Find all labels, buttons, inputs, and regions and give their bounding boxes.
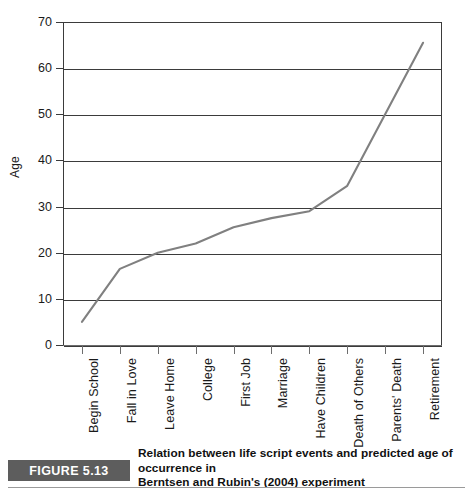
- y-tick-label-60: 60: [12, 61, 52, 75]
- figure-number-badge: FIGURE 5.13: [8, 460, 130, 481]
- gridline-30: [64, 208, 442, 209]
- y-tick-label-30: 30: [12, 200, 52, 214]
- gridline-20: [64, 254, 442, 255]
- y-tick-mark-20: [56, 253, 63, 254]
- y-tick-mark-10: [56, 299, 63, 300]
- caption-line-1: Relation between life script events and …: [138, 446, 468, 475]
- x-tick-mark-0: [82, 345, 83, 354]
- gridline-60: [64, 69, 442, 70]
- x-tick-mark-4: [234, 345, 235, 354]
- x-tick-mark-2: [158, 345, 159, 354]
- y-tick-label-0: 0: [12, 338, 52, 352]
- x-tick-mark-9: [423, 345, 424, 354]
- y-tick-label-50: 50: [12, 107, 52, 121]
- y-tick-mark-60: [56, 68, 63, 69]
- x-tick-label-9: Retirement: [428, 358, 442, 420]
- x-tick-label-3: College: [201, 358, 215, 401]
- y-tick-mark-50: [56, 114, 63, 115]
- x-tick-label-2: Leave Home: [163, 358, 177, 430]
- y-tick-label-40: 40: [12, 153, 52, 167]
- gridline-10: [64, 300, 442, 301]
- y-tick-mark-0: [56, 345, 63, 346]
- plot-area: [63, 22, 442, 345]
- gridline-50: [64, 115, 442, 116]
- x-tick-label-8: Parents' Death: [390, 358, 404, 442]
- caption-text: Relation between life script events and …: [138, 446, 468, 490]
- x-tick-label-1: Fall in Love: [125, 358, 139, 423]
- y-tick-mark-40: [56, 160, 63, 161]
- x-tick-mark-8: [385, 345, 386, 354]
- x-tick-label-5: Marriage: [276, 358, 290, 408]
- x-tick-mark-3: [196, 345, 197, 354]
- y-tick-mark-70: [56, 22, 63, 23]
- x-tick-label-7: Death of Others: [352, 358, 366, 448]
- caption-divider: [8, 487, 465, 488]
- figure-5-13: Age 010203040506070 Begin SchoolFall in …: [0, 0, 473, 490]
- y-tick-label-10: 10: [12, 292, 52, 306]
- x-tick-mark-1: [120, 345, 121, 354]
- y-tick-label-70: 70: [12, 15, 52, 29]
- y-tick-mark-30: [56, 207, 63, 208]
- x-tick-mark-7: [347, 345, 348, 354]
- x-tick-mark-6: [309, 345, 310, 354]
- gridline-40: [64, 161, 442, 162]
- x-tick-mark-5: [271, 345, 272, 354]
- plot-right-edge: [441, 22, 442, 345]
- x-tick-label-6: Have Children: [314, 358, 328, 439]
- x-tick-label-4: First Job: [239, 358, 253, 407]
- y-tick-label-20: 20: [12, 246, 52, 260]
- figure-caption: FIGURE 5.13 Relation between life script…: [0, 452, 473, 482]
- x-tick-label-0: Begin School: [87, 358, 101, 433]
